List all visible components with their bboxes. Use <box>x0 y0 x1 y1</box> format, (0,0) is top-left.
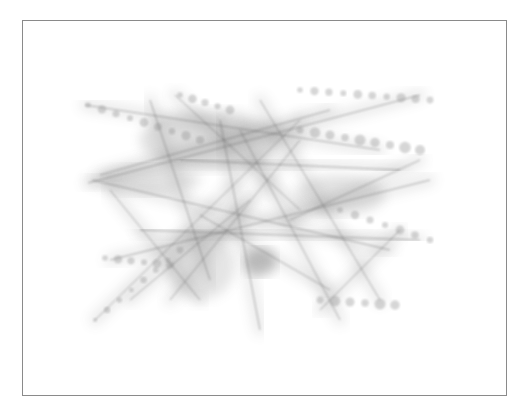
dot <box>361 299 369 307</box>
dot <box>368 92 376 100</box>
dot <box>201 99 208 106</box>
dot <box>390 300 400 310</box>
dot <box>297 87 303 93</box>
dot <box>140 277 147 284</box>
dot <box>383 93 389 99</box>
dot <box>85 102 91 108</box>
dot <box>382 222 388 228</box>
dot <box>341 134 349 142</box>
dot <box>104 307 110 313</box>
dot <box>153 267 159 273</box>
dot <box>427 97 434 104</box>
dot <box>317 297 324 304</box>
dot <box>399 142 411 154</box>
dot <box>346 298 355 307</box>
dot <box>351 211 359 219</box>
dot <box>397 93 406 102</box>
dot <box>129 288 134 293</box>
dot <box>340 90 346 96</box>
dot <box>177 92 183 98</box>
dot <box>427 237 433 243</box>
dot <box>215 103 221 109</box>
dot <box>98 105 106 113</box>
dot <box>415 145 425 155</box>
dot <box>141 259 147 265</box>
dot <box>366 216 373 223</box>
dot <box>310 87 318 95</box>
dot <box>396 226 405 235</box>
dot <box>114 255 122 263</box>
dot <box>297 127 304 134</box>
dot <box>355 135 366 146</box>
dot <box>370 138 380 148</box>
dot <box>337 207 343 213</box>
dot <box>375 299 386 310</box>
dot <box>188 95 196 103</box>
dot <box>353 90 362 99</box>
dot <box>93 318 97 322</box>
dot <box>117 297 122 302</box>
dot <box>181 131 190 140</box>
dot <box>325 89 332 96</box>
dot <box>127 257 134 264</box>
dot <box>196 136 204 144</box>
dot <box>226 106 235 115</box>
dot <box>112 110 119 117</box>
dot <box>153 259 162 268</box>
dot <box>386 141 394 149</box>
generative-artwork-canvas <box>0 0 528 418</box>
dot <box>326 131 335 140</box>
dot <box>330 296 341 307</box>
dot <box>412 95 420 103</box>
dot <box>127 115 133 121</box>
dot <box>310 127 321 138</box>
dot <box>140 118 149 127</box>
dot <box>154 123 162 131</box>
dot <box>165 258 170 263</box>
dot <box>169 128 175 134</box>
dot <box>102 255 108 261</box>
dot <box>411 231 419 239</box>
dot <box>177 247 184 254</box>
